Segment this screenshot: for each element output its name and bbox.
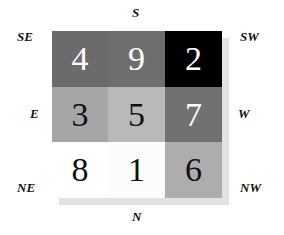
grid-cell: 5: [108, 87, 165, 142]
grid-cell: 8: [52, 142, 108, 198]
grid-cell: 3: [52, 87, 108, 142]
label-northwest: NW: [240, 180, 261, 196]
grid-cell: 6: [165, 142, 222, 198]
grid-cell: 9: [108, 31, 165, 87]
grid-cell: 4: [52, 31, 108, 87]
label-south: S: [132, 5, 139, 21]
label-north: N: [132, 209, 141, 225]
label-west: W: [238, 106, 250, 122]
grid-cell: 2: [165, 31, 222, 87]
label-northeast: NE: [17, 180, 35, 196]
grid-cell: 1: [108, 142, 165, 198]
magic-square-grid: 492357816: [52, 31, 222, 198]
label-southwest: SW: [240, 29, 259, 45]
grid-cell: 7: [165, 87, 222, 142]
label-southeast: SE: [17, 29, 33, 45]
label-east: E: [30, 106, 39, 122]
